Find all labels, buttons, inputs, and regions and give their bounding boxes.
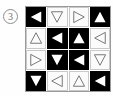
grid-cell-r2c3[interactable] (69, 28, 89, 48)
triangle-up-icon (93, 10, 107, 24)
triangle-left-icon (29, 10, 43, 24)
grid-cell-r1c2[interactable] (47, 7, 67, 27)
triangle-left-icon (93, 74, 107, 88)
figure-root: 3 (0, 0, 113, 96)
grid-cell-r4c4[interactable] (90, 71, 110, 91)
grid-cell-r3c3[interactable] (69, 50, 89, 70)
grid-cell-r2c4[interactable] (90, 28, 110, 48)
grid-cell-r4c3[interactable] (69, 71, 89, 91)
triangle-up-icon (29, 31, 43, 45)
triangle-down-icon (50, 53, 64, 67)
grid-cell-r3c1[interactable] (26, 50, 46, 70)
triangle-left-icon (50, 74, 64, 88)
item-number-badge: 3 (3, 9, 18, 24)
triangle-left-icon (50, 31, 64, 45)
grid-cell-r2c1[interactable] (26, 28, 46, 48)
grid-cell-r1c3[interactable] (69, 7, 89, 27)
triangle-left-icon (93, 31, 107, 45)
triangle-left-icon (72, 53, 86, 67)
grid-cell-r1c4[interactable] (90, 7, 110, 27)
triangle-down-icon (93, 53, 107, 67)
triangle-right-icon (72, 10, 86, 24)
grid-cell-r4c2[interactable] (47, 71, 67, 91)
triangle-down-icon (29, 74, 43, 88)
triangle-up-icon (72, 31, 86, 45)
item-number-label: 3 (8, 12, 13, 22)
grid-cell-r3c4[interactable] (90, 50, 110, 70)
grid-cell-r1c1[interactable] (26, 7, 46, 27)
triangle-right-icon (29, 53, 43, 67)
puzzle-grid (25, 6, 111, 92)
triangle-down-icon (50, 10, 64, 24)
triangle-up-icon (72, 74, 86, 88)
grid-cell-r3c2[interactable] (47, 50, 67, 70)
grid-cell-r4c1[interactable] (26, 71, 46, 91)
grid-cell-r2c2[interactable] (47, 28, 67, 48)
